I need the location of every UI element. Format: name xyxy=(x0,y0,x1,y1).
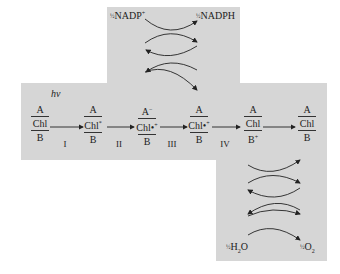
step-4-label: IV xyxy=(218,139,232,149)
oxygen-label: ½O2 xyxy=(300,241,315,254)
state-3: A Chl•+ B xyxy=(186,104,212,145)
step-2-label: II xyxy=(112,139,126,149)
state-5: A Chl B xyxy=(294,104,320,143)
nadph-label: ½NADPH xyxy=(196,10,235,21)
light-label: hν xyxy=(51,88,60,99)
state-0: A Chl B xyxy=(27,104,53,143)
nadp-label: ½NADP+ xyxy=(110,10,145,21)
state-4: A Chl B+ xyxy=(240,104,266,145)
state-2: A− Chl•+ B xyxy=(134,104,160,147)
water-label: ½H2O xyxy=(226,241,248,254)
step-1-label: I xyxy=(58,139,72,149)
step-3-label: III xyxy=(165,139,179,149)
state-1: A Chl* B xyxy=(80,104,106,145)
